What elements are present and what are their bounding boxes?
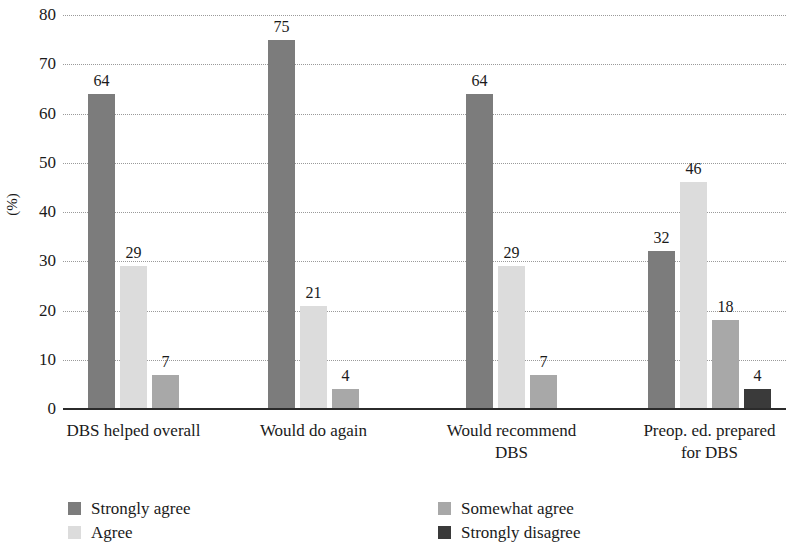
bar-value-label: 7 <box>140 354 191 370</box>
y-tick-label: 0 <box>22 400 56 417</box>
gridline <box>63 311 786 313</box>
bar-value-label: 75 <box>256 19 307 35</box>
bar-value-label: 29 <box>486 245 537 261</box>
category-label: Preop. ed. preparedfor DBS <box>615 420 796 464</box>
legend-label: Somewhat agree <box>461 500 574 517</box>
bar-value-label: 64 <box>454 73 505 89</box>
bar <box>120 266 147 409</box>
legend-item[interactable]: Somewhat agree <box>438 497 574 519</box>
category-label-line: Would recommend <box>417 420 607 442</box>
y-axis-tick-labels: 80706050403020100 <box>18 0 56 420</box>
y-tick-label: 50 <box>22 154 56 171</box>
y-tick-label: 40 <box>22 203 56 220</box>
bar <box>712 320 739 409</box>
y-tick-label: 80 <box>22 6 56 23</box>
legend-item[interactable]: Strongly agree <box>68 497 191 519</box>
y-tick-label: 10 <box>22 351 56 368</box>
category-label-line: DBS <box>417 442 607 464</box>
category-label-line: Preop. ed. prepared <box>615 420 796 442</box>
y-tick-label: 70 <box>22 55 56 72</box>
category-label: DBS helped overall <box>39 420 229 442</box>
category-label: Would recommendDBS <box>417 420 607 464</box>
gridline <box>63 64 786 66</box>
bar <box>680 182 707 409</box>
gridline <box>63 261 786 263</box>
x-axis-line <box>63 408 786 410</box>
bar-value-label: 29 <box>108 245 159 261</box>
bar-value-label: 21 <box>288 285 339 301</box>
y-tick-label: 30 <box>22 252 56 269</box>
legend-swatch-icon <box>438 526 451 539</box>
category-label-line: Would do again <box>219 420 409 442</box>
legend: Strongly agreeAgreeSomewhat agreeStrongl… <box>0 494 796 542</box>
legend-label: Agree <box>91 524 133 541</box>
plot-area: 6475643229212946747184 <box>63 15 786 409</box>
legend-item[interactable]: Strongly disagree <box>438 521 580 542</box>
legend-label: Strongly disagree <box>461 524 580 541</box>
gridline <box>63 114 786 116</box>
category-label-line: DBS helped overall <box>39 420 229 442</box>
bar <box>300 306 327 409</box>
legend-swatch-icon <box>68 526 81 539</box>
gridline <box>63 212 786 214</box>
legend-swatch-icon <box>438 502 451 515</box>
bar <box>648 251 675 409</box>
bar <box>744 389 771 409</box>
legend-swatch-icon <box>68 502 81 515</box>
category-label: Would do again <box>219 420 409 442</box>
bar-value-label: 18 <box>700 299 751 315</box>
bar-value-label: 46 <box>668 161 719 177</box>
bar-value-label: 64 <box>76 73 127 89</box>
bar-value-label: 4 <box>320 368 371 384</box>
bar <box>332 389 359 409</box>
bar <box>268 40 295 409</box>
bar-value-label: 4 <box>732 368 783 384</box>
bar <box>530 375 557 409</box>
bar <box>152 375 179 409</box>
legend-label: Strongly agree <box>91 500 191 517</box>
bar-chart: (%) 80706050403020100 647564322921294674… <box>0 0 796 542</box>
bar-value-label: 7 <box>518 354 569 370</box>
bar <box>498 266 525 409</box>
y-tick-label: 20 <box>22 302 56 319</box>
category-label-line: for DBS <box>615 442 796 464</box>
gridline <box>63 15 786 17</box>
y-tick-label: 60 <box>22 105 56 122</box>
legend-item[interactable]: Agree <box>68 521 133 542</box>
